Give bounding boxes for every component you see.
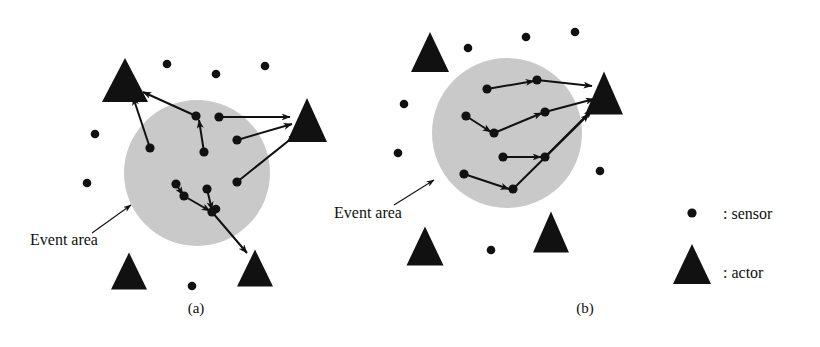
sensor-node — [532, 75, 541, 84]
sensor-node — [91, 130, 100, 139]
panel-b: Event area (b) — [334, 28, 623, 317]
legend: : sensor : actor — [673, 205, 773, 284]
sensor-node — [171, 179, 180, 188]
actor-bottom-left — [111, 253, 147, 290]
actor-right — [585, 72, 623, 115]
sensor-node — [394, 149, 403, 158]
event-area-label-b: Event area — [334, 204, 402, 221]
sensor-node — [261, 62, 270, 71]
actor-bottom-right — [533, 212, 569, 253]
sensor-node — [498, 152, 507, 161]
actor-triangle-icon — [673, 244, 711, 284]
sensor-node — [464, 44, 473, 53]
actor-top-left — [102, 58, 148, 102]
sensor-node — [188, 282, 197, 291]
sensor-node — [191, 111, 200, 120]
sensor-node — [540, 107, 549, 116]
sensor-node — [163, 60, 172, 69]
actor-right — [287, 98, 327, 142]
sensor-node — [212, 70, 221, 79]
sensor-node — [596, 167, 605, 176]
sensor-node — [207, 207, 216, 216]
sensor-node — [540, 152, 549, 161]
sensor-node — [202, 184, 211, 193]
panel-caption-b: (b) — [576, 300, 594, 317]
sensor-node — [232, 177, 241, 186]
diagram-canvas: Event area (a) Event area (b) : sensor :… — [0, 0, 820, 347]
event-area-label-a: Event area — [30, 231, 98, 248]
event-area-pointer-a — [92, 205, 131, 233]
sensor-node — [459, 169, 468, 178]
actor-bottom-left — [407, 227, 444, 266]
sensor-node — [179, 191, 188, 200]
panel-caption-a: (a) — [188, 300, 205, 317]
sensor-node — [571, 28, 580, 37]
sensor-node — [461, 111, 470, 120]
legend-label-sensor: : sensor — [723, 205, 773, 222]
sensor-node — [508, 184, 517, 193]
event-area-circle-b — [432, 58, 582, 208]
sensor-dot-icon — [687, 208, 696, 217]
sensor-node — [489, 128, 498, 137]
panel-a: Event area (a) — [30, 58, 327, 317]
sensor-node — [487, 246, 496, 255]
event-area-pointer-b — [394, 180, 434, 205]
actor-top-left — [411, 32, 449, 72]
sensor-node — [400, 100, 409, 109]
sensor-node — [199, 147, 208, 156]
figure-container: Event area (a) Event area (b) : sensor :… — [0, 0, 820, 347]
sensor-node — [214, 112, 223, 121]
sensor-node — [522, 33, 531, 42]
sensor-node — [482, 84, 491, 93]
sensor-node — [145, 143, 154, 152]
actor-bottom-right — [237, 250, 273, 287]
sensor-node — [83, 179, 92, 188]
legend-label-actor: : actor — [723, 264, 764, 281]
sensor-node — [232, 135, 241, 144]
